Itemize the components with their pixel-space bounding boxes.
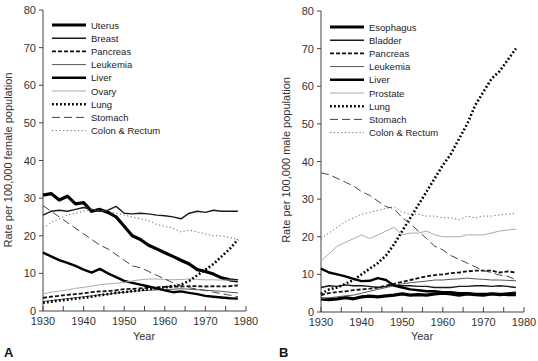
y-tick-label: 50 [24,117,36,129]
legend-b: EsophagusBladderPancreasLeukemiaLiverPro… [330,22,438,139]
x-axis-title-a: Year [133,330,156,342]
y-tick-label: 40 [24,155,36,167]
y-tick-label: 60 [24,79,36,91]
legend-label: Lung [369,101,390,112]
chart-panel-a: 0102030405060708019301940195019601970198… [2,4,258,360]
series-a [43,194,238,303]
y-tick-label: 10 [302,268,314,280]
x-tick-label: 1940 [349,316,373,328]
figure: 0102030405060708019301940195019601970198… [0,0,538,361]
y-tick-label: 60 [302,80,314,92]
y-tick-label: 70 [24,42,36,54]
legend-label: Pancreas [369,48,409,59]
y-tick-label: 10 [24,267,36,279]
x-axis-title-b: Year [411,330,434,342]
legend-label: Prostate [369,88,404,99]
series-line-liver [43,253,238,299]
legend-a: UterusBreastPancreasLeukemiaLiverOvaryLu… [52,20,160,137]
x-tick-label: 1950 [112,315,136,327]
x-tick-label: 1930 [309,316,333,328]
series-line-stomach [43,206,238,297]
x-tick-label: 1960 [153,315,177,327]
x-tick-label: 1980 [512,316,536,328]
legend-label: Lung [91,99,112,110]
x-tick-label: 1930 [31,315,55,327]
legend-label: Bladder [369,35,402,46]
x-tick-label: 1970 [193,315,217,327]
series-b [321,49,516,300]
legend-label: Colon & Rectum [369,127,438,138]
series-line-breast [43,206,238,218]
legend-label: Stomach [369,114,407,125]
series-line-ovary [43,279,238,294]
legend-label: Stomach [91,112,129,123]
series-line-stomach [321,173,516,280]
legend-label: Pancreas [91,46,131,57]
legend-label: Liver [369,74,390,85]
chart-panel-b: 0102030405060708019301940195019601970198… [279,5,536,360]
y-tick-label: 30 [302,193,314,205]
legend-label: Leukemia [369,61,411,72]
series-line-uterus [43,194,238,281]
legend-label: Colon & Rectum [91,125,160,136]
series-line-lung [321,49,516,294]
x-tick-label: 1940 [71,315,95,327]
x-tick-label: 1960 [431,316,455,328]
x-tick-label: 1970 [471,316,495,328]
legend-label: Breast [91,33,119,44]
series-line-pancreas [321,271,516,296]
y-tick-label: 30 [24,192,36,204]
y-tick-label: 80 [302,5,314,17]
legend-label: Uterus [91,20,119,31]
panel-label-b: B [279,345,288,360]
y-tick-label: 50 [302,118,314,130]
y-tick-label: 20 [24,230,36,242]
y-tick-label: 20 [302,231,314,243]
y-axis-title-b: Rate per 100,000 male population [280,77,292,243]
y-tick-label: 40 [302,156,314,168]
x-tick-label: 1980 [234,315,258,327]
series-line-prostate [321,227,516,261]
series-line-bladder [321,285,516,288]
y-tick-label: 80 [24,4,36,16]
legend-label: Esophagus [369,22,417,33]
panel-label-a: A [4,345,14,360]
legend-label: Ovary [91,86,117,97]
x-tick-label: 1950 [390,316,414,328]
series-line-colon-rectum [43,209,238,239]
legend-label: Liver [91,72,112,83]
y-axis-title-a: Rate per 100,000 female population [2,73,14,248]
legend-label: Leukemia [91,59,133,70]
y-tick-label: 70 [302,43,314,55]
